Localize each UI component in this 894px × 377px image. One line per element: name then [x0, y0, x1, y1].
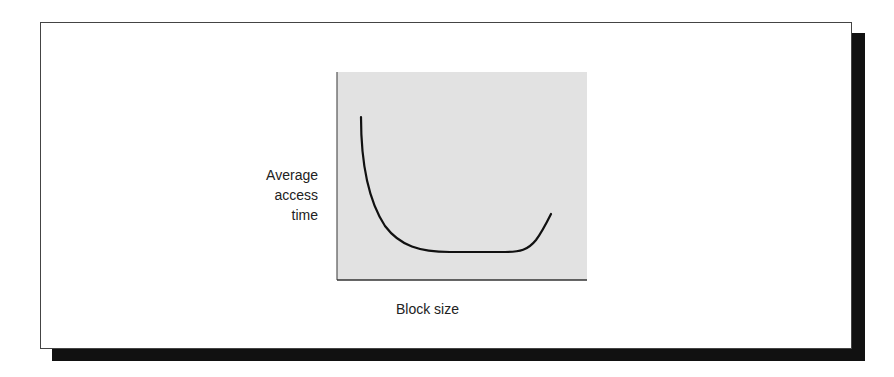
- y-axis-label: Average access time: [266, 165, 318, 225]
- y-label-line-1: Average: [266, 165, 318, 185]
- chart-svg: [0, 0, 894, 377]
- y-label-line-3: time: [266, 205, 318, 225]
- access-time-curve: [361, 117, 551, 252]
- y-label-line-2: access: [266, 185, 318, 205]
- x-axis-label: Block size: [396, 301, 459, 317]
